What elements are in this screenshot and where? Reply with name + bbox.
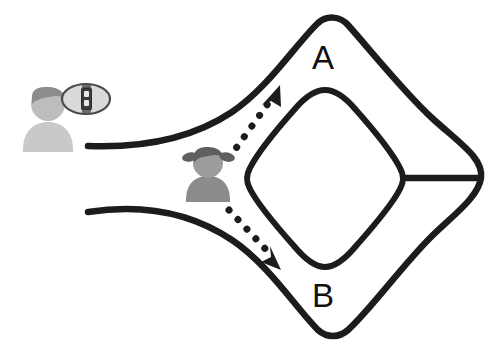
route-label-a: A — [312, 39, 334, 76]
diagram-root: A B — [0, 0, 500, 350]
signal-icon-lamp-upper — [84, 91, 89, 97]
decider-person — [181, 147, 236, 202]
traveler-body — [23, 122, 73, 152]
decider-body — [186, 176, 230, 202]
traffic-signal-icon — [82, 85, 92, 113]
signal-icon-base — [82, 110, 91, 113]
road-network — [88, 18, 481, 336]
signal-icon-lamp-lower — [84, 100, 89, 106]
route-diagram-canvas: A B — [0, 0, 500, 350]
thought-bubble — [62, 84, 110, 114]
inner-loop-road — [247, 90, 403, 267]
arrow-to-a-head — [262, 85, 281, 107]
route-label-b: B — [312, 277, 334, 314]
